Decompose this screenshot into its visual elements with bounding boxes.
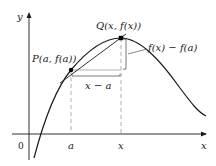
- x-axis-arrow-icon: [201, 132, 207, 137]
- vertical-annotation-pointer: [128, 49, 147, 54]
- horizontal-difference-label: x − a: [85, 80, 111, 91]
- horizontal-bracket: [72, 74, 120, 76]
- origin-label: 0: [18, 141, 24, 151]
- point-p: [69, 68, 73, 72]
- point-p-label: P(a, f(a)): [31, 53, 76, 64]
- secant-line-diagram: y x 0 a x P(a, f(a)) Q(x, f(x)) x − a f(…: [0, 0, 216, 166]
- x-tick-label-x: x: [118, 140, 124, 151]
- x-axis-label: x: [201, 140, 207, 151]
- point-q-label: Q(x, f(x)): [96, 20, 141, 31]
- point-q: [119, 36, 123, 40]
- y-axis-label: y: [16, 11, 23, 22]
- x-tick-label-a: a: [68, 140, 74, 151]
- vertical-difference-label: f(x) − f(a): [147, 42, 197, 53]
- y-axis-arrow-icon: [27, 12, 32, 18]
- vertical-bracket: [123, 39, 126, 69]
